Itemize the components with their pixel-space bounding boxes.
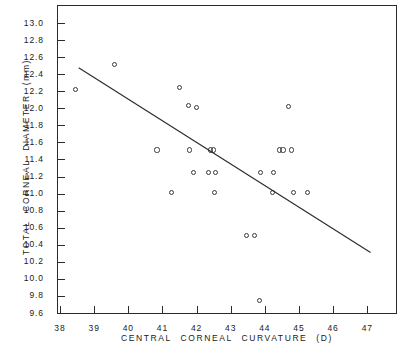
y-tick-label: 9.6 bbox=[0, 309, 44, 318]
y-tick-label: 12.0 bbox=[0, 104, 44, 113]
data-point bbox=[206, 170, 211, 175]
figure: TOTAL CORNEAL DIAMETER (mm) CENTRAL CORN… bbox=[0, 0, 405, 352]
data-point bbox=[244, 233, 249, 238]
x-tick-label: 47 bbox=[354, 324, 380, 333]
y-tick-label: 13.0 bbox=[0, 19, 44, 28]
x-tick-label: 39 bbox=[81, 324, 107, 333]
y-tick bbox=[58, 57, 65, 58]
y-tick-label: 11.4 bbox=[0, 155, 44, 164]
x-tick-label: 43 bbox=[218, 324, 244, 333]
y-tick bbox=[58, 245, 65, 246]
data-point bbox=[194, 105, 199, 110]
data-point bbox=[257, 298, 262, 303]
y-tick bbox=[58, 313, 65, 314]
y-tick-label: 12.6 bbox=[0, 53, 44, 62]
y-tick bbox=[58, 262, 65, 263]
y-tick-label: 12.8 bbox=[0, 36, 44, 45]
data-point bbox=[258, 170, 263, 175]
y-tick bbox=[58, 159, 65, 160]
data-point bbox=[212, 190, 217, 195]
x-tick-label: 41 bbox=[149, 324, 175, 333]
data-point bbox=[291, 190, 296, 195]
data-point bbox=[213, 170, 218, 175]
data-point bbox=[252, 233, 257, 238]
x-tick-label: 40 bbox=[115, 324, 141, 333]
x-axis-title: CENTRAL CORNEAL CURVATURE (D) bbox=[57, 333, 397, 343]
data-point bbox=[187, 147, 192, 152]
x-tick bbox=[367, 306, 368, 313]
data-point bbox=[305, 190, 310, 195]
y-tick-label: 10.8 bbox=[0, 206, 44, 215]
y-tick-label: 10.6 bbox=[0, 223, 44, 232]
x-tick bbox=[231, 306, 232, 313]
data-point bbox=[286, 104, 291, 109]
data-point bbox=[271, 170, 276, 175]
x-tick-label: 44 bbox=[252, 324, 278, 333]
x-tick bbox=[128, 306, 129, 313]
y-tick-label: 10.0 bbox=[0, 274, 44, 283]
y-tick-label: 11.0 bbox=[0, 189, 44, 198]
data-point bbox=[270, 190, 275, 195]
data-point bbox=[177, 85, 182, 90]
data-point bbox=[154, 147, 159, 152]
y-tick bbox=[58, 125, 65, 126]
data-point bbox=[186, 103, 191, 108]
data-point bbox=[280, 147, 285, 152]
data-point bbox=[73, 87, 78, 92]
y-tick bbox=[58, 91, 65, 92]
x-tick-label: 46 bbox=[320, 324, 346, 333]
y-tick bbox=[58, 296, 65, 297]
y-tick-label: 10.2 bbox=[0, 257, 44, 266]
y-tick-label: 11.8 bbox=[0, 121, 44, 130]
y-tick bbox=[58, 211, 65, 212]
y-tick bbox=[58, 74, 65, 75]
x-tick bbox=[162, 306, 163, 313]
y-tick bbox=[58, 279, 65, 280]
y-tick bbox=[58, 23, 65, 24]
data-point bbox=[112, 62, 117, 67]
data-point bbox=[211, 147, 216, 152]
y-tick bbox=[58, 108, 65, 109]
y-tick-label: 10.4 bbox=[0, 240, 44, 249]
y-tick-label: 12.4 bbox=[0, 70, 44, 79]
y-tick-label: 12.2 bbox=[0, 87, 44, 96]
y-tick bbox=[58, 40, 65, 41]
data-point bbox=[191, 170, 196, 175]
y-tick bbox=[58, 194, 65, 195]
x-tick-label: 45 bbox=[286, 324, 312, 333]
regression-line bbox=[58, 6, 396, 313]
y-tick bbox=[58, 177, 65, 178]
x-tick bbox=[299, 306, 300, 313]
y-tick bbox=[58, 142, 65, 143]
data-point bbox=[289, 147, 294, 152]
x-tick bbox=[265, 306, 266, 313]
x-tick-label: 42 bbox=[184, 324, 210, 333]
y-tick-label: 11.2 bbox=[0, 172, 44, 181]
data-point bbox=[169, 190, 174, 195]
plot-area: 9.69.810.010.210.410.610.811.011.211.411… bbox=[57, 5, 397, 314]
x-tick bbox=[197, 306, 198, 313]
x-tick-label: 38 bbox=[47, 324, 73, 333]
x-tick bbox=[333, 306, 334, 313]
y-tick bbox=[58, 228, 65, 229]
x-tick bbox=[60, 306, 61, 313]
y-tick-label: 9.8 bbox=[0, 291, 44, 300]
y-tick-label: 11.6 bbox=[0, 138, 44, 147]
x-tick bbox=[94, 306, 95, 313]
